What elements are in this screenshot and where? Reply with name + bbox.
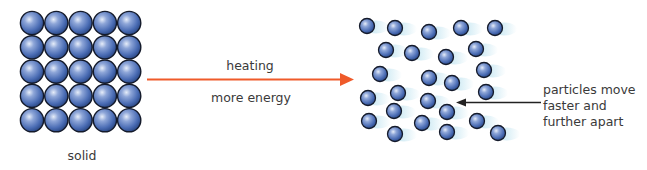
gas-particle bbox=[422, 25, 437, 40]
solid-particle bbox=[20, 60, 43, 83]
gas-particle bbox=[488, 21, 503, 36]
solid-particle-grid bbox=[20, 11, 140, 131]
gas-particle bbox=[360, 19, 375, 34]
gas-particle bbox=[415, 116, 430, 131]
gas-particle bbox=[422, 71, 437, 86]
solid-particle bbox=[69, 11, 92, 34]
solid-particle bbox=[93, 36, 116, 59]
gas-particle bbox=[379, 43, 394, 58]
solid-particle bbox=[69, 109, 92, 132]
solid-particle bbox=[45, 109, 68, 132]
gas-particle bbox=[445, 76, 460, 91]
solid-particle bbox=[45, 36, 68, 59]
gas-particle bbox=[470, 114, 485, 129]
gas-particle bbox=[491, 126, 506, 141]
solid-particle bbox=[20, 84, 43, 107]
solid-particle bbox=[118, 60, 141, 83]
solid-particle bbox=[45, 84, 68, 107]
annotation-line-2: faster and bbox=[543, 98, 607, 114]
annotation-line-3: further apart bbox=[543, 114, 623, 130]
gas-particle bbox=[439, 50, 454, 65]
gas-particle bbox=[387, 104, 402, 119]
heating-label: heating bbox=[226, 58, 274, 74]
heating-arrow bbox=[147, 73, 354, 86]
solid-particle bbox=[118, 11, 141, 34]
solid-particle bbox=[93, 60, 116, 83]
solid-particle bbox=[93, 84, 116, 107]
solid-particle bbox=[20, 36, 43, 59]
annotation-arrow bbox=[456, 99, 541, 107]
gas-particle bbox=[391, 86, 406, 101]
solid-particle bbox=[118, 109, 141, 132]
solid-particle bbox=[45, 11, 68, 34]
solid-particle bbox=[45, 60, 68, 83]
solid-particle bbox=[69, 84, 92, 107]
solid-particle bbox=[20, 109, 43, 132]
gas-particle bbox=[469, 42, 484, 57]
solid-particle bbox=[118, 36, 141, 59]
gas-particle bbox=[362, 114, 377, 129]
gas-particle bbox=[440, 125, 455, 140]
gas-particle bbox=[388, 127, 403, 142]
gas-particle bbox=[477, 63, 492, 78]
annotation-line-1: particles move bbox=[543, 82, 636, 98]
solid-particle bbox=[93, 109, 116, 132]
solid-label: solid bbox=[67, 148, 96, 164]
gas-particle bbox=[479, 85, 494, 100]
more-energy-label: more energy bbox=[211, 90, 291, 106]
solid-particle bbox=[69, 60, 92, 83]
gas-particle bbox=[361, 91, 376, 106]
gas-particle bbox=[405, 46, 420, 61]
gas-particle bbox=[440, 105, 455, 120]
gas-particle bbox=[421, 94, 436, 109]
solid-particle bbox=[20, 11, 43, 34]
solid-particle bbox=[69, 36, 92, 59]
gas-particle bbox=[388, 21, 403, 36]
gas-motion-trails bbox=[363, 21, 520, 142]
solid-particle bbox=[118, 84, 141, 107]
gas-particle bbox=[454, 21, 469, 36]
gas-particle bbox=[373, 67, 388, 82]
solid-particle bbox=[93, 11, 116, 34]
